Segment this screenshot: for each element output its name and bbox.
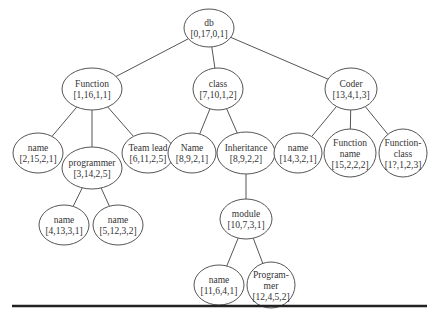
node-label: Team lead <box>128 143 167 153</box>
node-label: [4,13,3,1] <box>45 226 82 236</box>
node-name-11: name[11,6,4,1] <box>194 265 244 305</box>
node-programmer-12: Program-mer[12,4,5,2] <box>247 262 295 308</box>
node-ellipse <box>274 133 322 173</box>
edge-function-team-lead <box>108 107 134 137</box>
node-label: name <box>28 143 49 153</box>
node-label: Function <box>333 138 367 148</box>
node-name-14: name[14,3,2,1] <box>274 133 322 173</box>
edge-module-programmer-12 <box>253 238 263 263</box>
node-label: db <box>204 18 214 28</box>
node-label: mer <box>264 281 280 291</box>
node-coder: Coder[13,4,1,3] <box>325 68 377 110</box>
node-name-4: name[4,13,3,1] <box>39 205 89 245</box>
node-db: db[0,17,0,1] <box>184 9 234 47</box>
node-ellipse <box>93 205 143 245</box>
edge-module-name-11 <box>227 238 238 266</box>
node-ellipse <box>168 133 216 173</box>
node-label: [2,15,2,1] <box>19 154 56 164</box>
node-ellipse <box>184 9 234 47</box>
node-label: Program- <box>253 270 289 280</box>
node-team-lead: Team lead[6,11,2,5] <box>122 133 174 173</box>
edge-db-function <box>116 39 188 77</box>
node-name-8: Name[8,9,2,1] <box>168 133 216 173</box>
edge-class-inheritance <box>227 109 238 133</box>
edge-coder-function-class <box>365 107 388 135</box>
node-label: [13,4,1,3] <box>332 90 369 100</box>
edge-function-name-2 <box>52 107 77 136</box>
node-label: [1?,1,2,3] <box>385 160 422 170</box>
node-ellipse <box>194 265 244 305</box>
node-ellipse <box>13 133 63 173</box>
node-label: module <box>232 209 261 219</box>
node-label: Inheritance <box>225 143 268 153</box>
node-ellipse <box>39 205 89 245</box>
edge-programmer-name-5 <box>101 188 109 206</box>
node-label: [8,9,2,2] <box>230 154 262 164</box>
node-label: [6,11,2,5] <box>130 154 167 164</box>
node-function-class: Function-class[1?,1,2,3] <box>379 129 427 177</box>
node-programmer: programmer[3,14,2,5] <box>62 147 122 189</box>
node-label: [1,16,1,1] <box>73 90 110 100</box>
node-name-5: name[5,12,3,2] <box>93 205 143 245</box>
node-label: class <box>394 149 413 159</box>
node-label: [10,7,3,1] <box>227 220 264 230</box>
edge-db-coder <box>231 37 328 79</box>
node-label: [14,3,2,1] <box>279 154 316 164</box>
node-function-name: Functionname[15,2,2,2] <box>324 129 376 177</box>
node-label: [3,14,2,5] <box>73 169 110 179</box>
node-module: module[10,7,3,1] <box>220 199 272 239</box>
edge-coder-name-14 <box>312 106 337 136</box>
node-ellipse <box>220 199 272 239</box>
node-ellipse <box>193 68 243 110</box>
tree-diagram: db[0,17,0,1]Function[1,16,1,1]class[7,10… <box>0 0 441 316</box>
node-function: Function[1,16,1,1] <box>62 68 122 110</box>
node-name-2: name[2,15,2,1] <box>13 133 63 173</box>
node-ellipse <box>62 147 122 189</box>
node-label: [15,2,2,2] <box>331 160 368 170</box>
node-label: [7,10,1,2] <box>199 90 236 100</box>
node-label: [12,4,5,2] <box>252 292 289 302</box>
node-class: class[7,10,1,2] <box>193 68 243 110</box>
node-label: name <box>340 149 361 159</box>
edge-db-class <box>212 47 215 68</box>
node-inheritance: Inheritance[8,9,2,2] <box>217 132 275 174</box>
edge-programmer-name-4 <box>73 188 82 207</box>
edge-class-name-8 <box>200 109 210 134</box>
node-label: Coder <box>339 79 363 89</box>
node-label: name <box>54 215 75 225</box>
node-label: programmer <box>69 158 117 168</box>
node-label: [11,6,4,1] <box>201 286 238 296</box>
tree-nodes: db[0,17,0,1]Function[1,16,1,1]class[7,10… <box>13 9 427 308</box>
node-ellipse <box>122 133 174 173</box>
node-ellipse <box>62 68 122 110</box>
node-label: name <box>209 275 230 285</box>
node-label: Function- <box>385 138 422 148</box>
node-label: Name <box>181 143 204 153</box>
node-label: class <box>209 79 228 89</box>
node-label: Function <box>75 79 109 89</box>
node-label: name <box>108 215 129 225</box>
node-label: [5,12,3,2] <box>99 226 136 236</box>
node-label: [8,9,2,1] <box>176 154 208 164</box>
node-label: name <box>288 143 309 153</box>
node-ellipse <box>217 132 275 174</box>
node-label: [0,17,0,1] <box>190 29 227 39</box>
node-ellipse <box>325 68 377 110</box>
